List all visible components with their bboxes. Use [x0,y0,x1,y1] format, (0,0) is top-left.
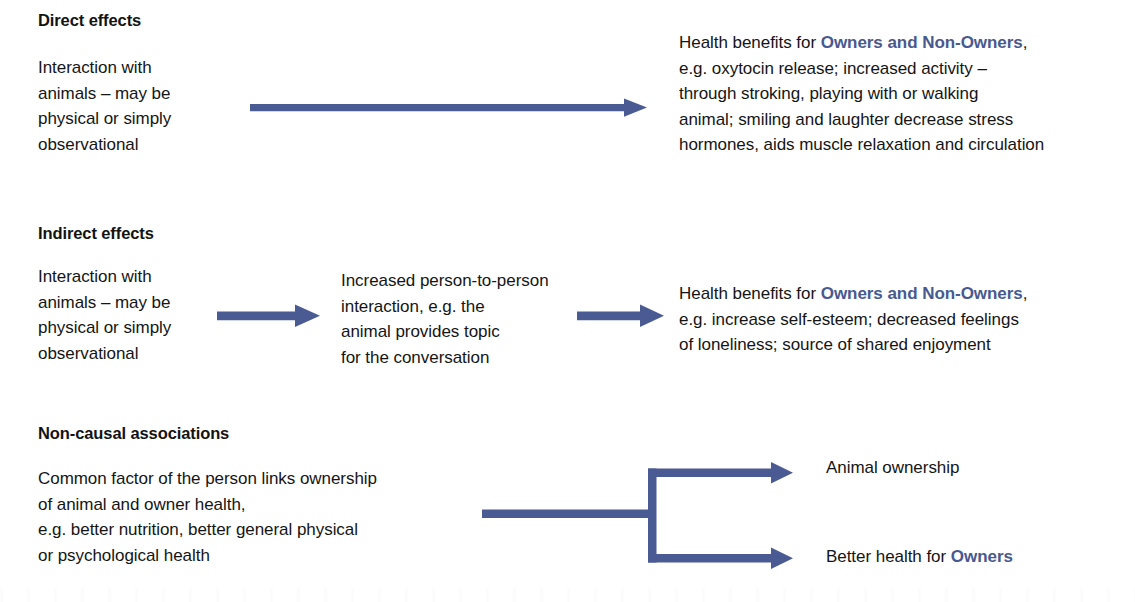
cause-line: Interaction with [38,55,253,81]
mediator-line: for the conversation [341,345,577,371]
outcome-lead: Health benefits for [679,284,821,303]
outcome-lead: Better health for [826,547,951,566]
direct-effects-arrow [250,98,648,124]
cause-line: animals – may be [38,81,253,107]
non-causal-outcome-animal-ownership: Animal ownership [826,455,1126,481]
cause-line: e.g. better nutrition, better general ph… [38,517,468,543]
mediator-line: animal provides topic [341,319,577,345]
mediator-line: Increased person-to-person [341,268,577,294]
outcome-punctuation: , [1023,284,1028,303]
section-heading-direct-effects: Direct effects [38,11,141,30]
outcome-line: of loneliness; source of shared enjoymen… [679,332,1131,358]
non-causal-cause-text: Common factor of the person links owners… [38,466,468,568]
indirect-effects-outcome-text: Health benefits for Owners and Non-Owner… [679,281,1131,358]
arrow-right-icon [217,304,321,334]
outcome-line: Health benefits for Owners and Non-Owner… [679,30,1131,56]
outcome-line: e.g. increase self-esteem; decreased fee… [679,307,1131,333]
outcome-line: Health benefits for Owners and Non-Owner… [679,281,1131,307]
diagram-canvas: Direct effects Interaction with animals … [0,0,1135,602]
outcome-line: animal; smiling and laughter decrease st… [679,107,1131,133]
outcome-lead: Animal ownership [826,458,959,477]
outcome-accent: Owners and Non-Owners [821,284,1023,303]
non-causal-outcome-better-health: Better health for Owners [826,544,1126,570]
outcome-accent: Owners [951,547,1013,566]
non-causal-branching-arrow [482,462,794,574]
scan-artifact-band [0,588,1135,602]
outcome-line: hormones, aids muscle relaxation and cir… [679,132,1131,158]
direct-effects-outcome-text: Health benefits for Owners and Non-Owner… [679,30,1131,158]
indirect-effects-arrow-1 [217,304,321,334]
outcome-line: through stroking, playing with or walkin… [679,81,1131,107]
cause-line: observational [38,132,253,158]
indirect-effects-arrow-2 [577,304,665,334]
outcome-punctuation: , [1023,33,1028,52]
section-heading-non-causal-associations: Non-causal associations [38,424,229,443]
section-heading-indirect-effects: Indirect effects [38,224,154,243]
cause-line: observational [38,341,253,367]
cause-line: or psychological health [38,543,468,569]
cause-line: Common factor of the person links owners… [38,466,468,492]
outcome-accent: Owners and Non-Owners [821,33,1023,52]
arrow-right-icon [250,98,648,124]
arrow-right-icon [577,304,665,334]
cause-line: of animal and owner health, [38,492,468,518]
direct-effects-cause-text: Interaction with animals – may be physic… [38,55,253,157]
outcome-line: e.g. oxytocin release; increased activit… [679,56,1131,82]
cause-line: Interaction with [38,264,253,290]
indirect-effects-mediator-text: Increased person-to-person interaction, … [341,268,577,370]
outcome-lead: Health benefits for [679,33,821,52]
arrow-branch-icon [482,462,794,574]
mediator-line: interaction, e.g. the [341,294,577,320]
cause-line: physical or simply [38,106,253,132]
